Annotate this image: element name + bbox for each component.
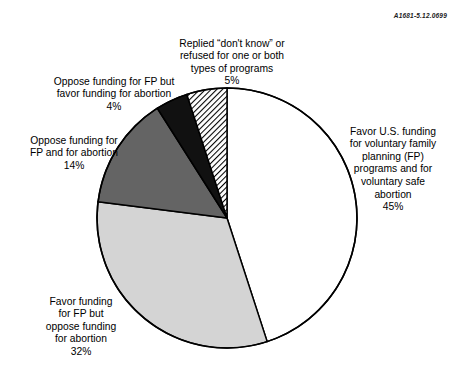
slice-label-favor-both: Favor U.S. funding for voluntary family … [334,113,452,226]
slice-label-favor-both-value: 45% [334,201,452,214]
slice-label-oppose-both-value: 14% [8,160,140,173]
slice-label-favor-fp-oppose-abortion: Favor funding for FP but oppose funding … [18,283,144,371]
slice-label-oppose-both-text: Oppose funding for FP and for abortion [30,135,118,159]
slice-label-oppose-fp-favor-abortion-value: 4% [16,101,212,114]
pie-chart-figure: A1681-5.12.0699 Replied “don't know” or … [0,0,455,375]
slice-label-favor-both-text: Favor U.S. funding for voluntary family … [350,126,436,200]
slice-label-oppose-fp-favor-abortion-text: Oppose funding for FP but favor funding … [54,76,175,100]
slice-label-oppose-both: Oppose funding for FP and for abortion 1… [8,122,140,185]
slice-label-favor-fp-oppose-abortion-text: Favor funding for FP but oppose funding … [46,296,116,345]
slice-label-oppose-fp-favor-abortion: Oppose funding for FP but favor funding … [16,63,212,126]
slice-label-favor-fp-oppose-abortion-value: 32% [18,346,144,359]
